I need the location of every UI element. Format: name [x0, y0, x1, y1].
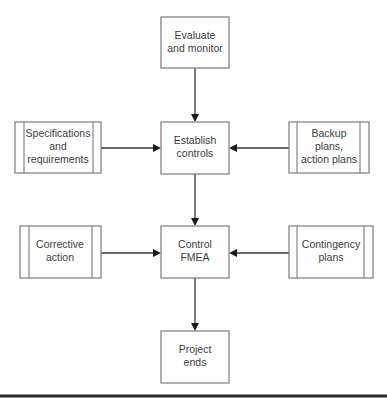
- node-label: FMEA: [180, 251, 209, 263]
- node-label: Evaluate: [175, 29, 216, 41]
- arrowhead-left-icon: [229, 144, 237, 152]
- arrowhead-left-icon: [229, 249, 237, 257]
- node-label: plans: [318, 251, 343, 263]
- node-label: Contingency: [302, 238, 361, 250]
- node-label: and: [49, 140, 67, 152]
- node-label: Project: [179, 343, 212, 355]
- node-label: Control: [178, 238, 212, 250]
- node-label: Specifications: [26, 127, 91, 139]
- node-label: action: [46, 251, 74, 263]
- node-evaluate-and-monitor: Evaluate and monitor: [161, 17, 229, 68]
- node-label: Corrective: [36, 238, 84, 250]
- node-label: plans,: [315, 140, 343, 152]
- arrowhead-right-icon: [153, 144, 161, 152]
- node-label: Backup: [311, 127, 346, 139]
- node-label: and monitor: [167, 42, 223, 54]
- node-label: action plans: [301, 153, 357, 165]
- connectors: [101, 68, 289, 331]
- arrowhead-down-icon: [191, 323, 199, 331]
- node-label: controls: [177, 147, 214, 159]
- flowchart: Evaluate and monitor Specifications and …: [0, 0, 387, 403]
- node-label: requirements: [27, 153, 88, 165]
- node-establish-controls: Establish controls: [161, 122, 229, 174]
- node-corrective-action: Corrective action: [20, 226, 101, 278]
- node-specifications-and-requirements: Specifications and requirements: [15, 122, 101, 173]
- node-label: Establish: [174, 134, 217, 146]
- arrowhead-down-icon: [191, 218, 199, 226]
- node-control-fmea: Control FMEA: [161, 226, 229, 278]
- arrowhead-right-icon: [153, 249, 161, 257]
- node-project-ends: Project ends: [161, 331, 229, 383]
- node-backup-plans: Backup plans, action plans: [289, 122, 369, 173]
- node-label: ends: [184, 356, 207, 368]
- arrowhead-down-icon: [191, 114, 199, 122]
- node-contingency-plans: Contingency plans: [289, 226, 373, 278]
